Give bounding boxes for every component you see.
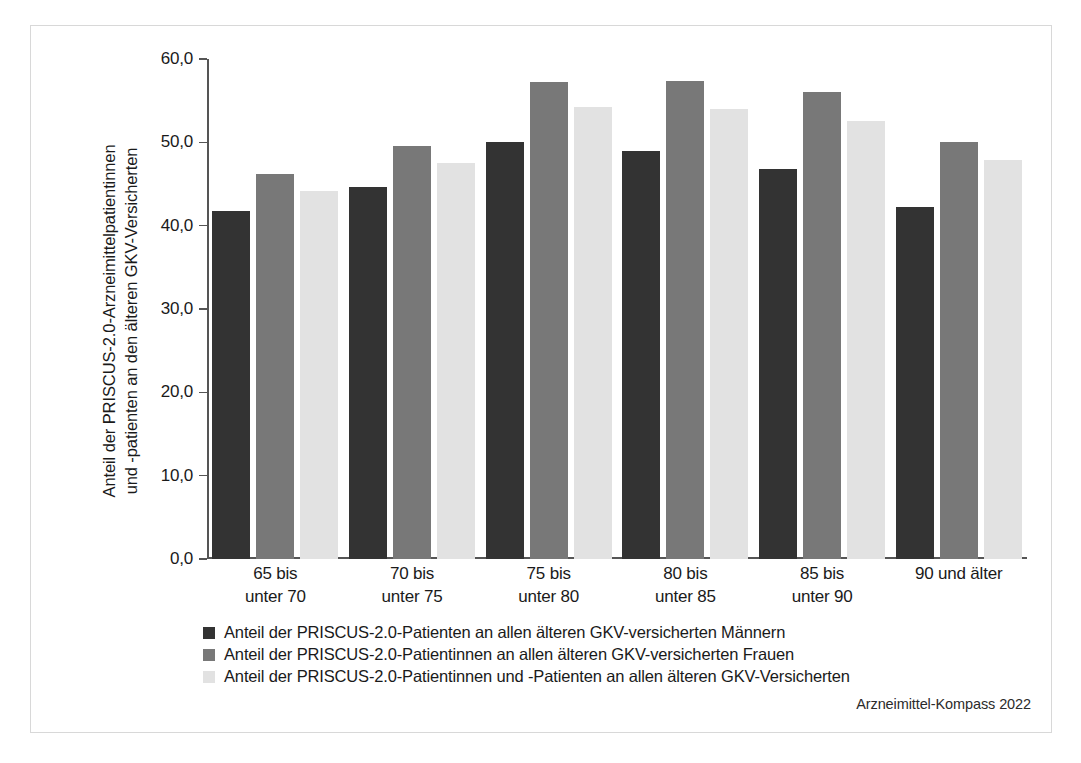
bar-group: [754, 59, 891, 559]
y-axis-tick: 10,0: [161, 466, 207, 486]
x-axis-tick-label-line: 85 bis: [754, 563, 891, 586]
bar: [256, 174, 294, 559]
legend-swatch-icon: [203, 627, 215, 639]
y-axis-tick-mark: [199, 392, 207, 394]
bar: [530, 82, 568, 559]
y-axis-tick: 0,0: [170, 549, 207, 569]
y-axis-tick: 50,0: [161, 132, 207, 152]
y-axis-tick: 30,0: [161, 299, 207, 319]
bar: [759, 169, 797, 559]
legend-swatch-icon: [203, 671, 215, 683]
y-axis-tick-label: 30,0: [161, 299, 193, 319]
y-axis-tick-mark: [199, 308, 207, 310]
x-axis-tick-label: 80 bisunter 85: [617, 563, 754, 609]
bar-group: [617, 59, 754, 559]
x-axis-tick-label: 90 und älter: [890, 563, 1027, 609]
legend-label: Anteil der PRISCUS-2.0-Patienten an alle…: [224, 623, 785, 642]
y-axis-tick-label: 0,0: [170, 549, 193, 569]
bar: [710, 109, 748, 559]
legend-item: Anteil der PRISCUS-2.0-Patientinnen und …: [203, 667, 850, 686]
y-axis-title-line-2: und -patienten an den älteren GKV-Versic…: [121, 148, 143, 495]
y-axis-tick: 40,0: [161, 216, 207, 236]
y-axis-tick-label: 10,0: [161, 466, 193, 486]
y-axis-tick: 60,0: [161, 49, 207, 69]
y-axis-tick-mark: [199, 225, 207, 227]
plot-area: 60,050,040,030,020,010,00,0: [207, 59, 1027, 559]
y-axis-title: Anteil der PRISCUS-2.0-Arzneimittelpatie…: [91, 86, 151, 556]
legend-label: Anteil der PRISCUS-2.0-Patientinnen und …: [224, 667, 850, 686]
y-axis-tick-mark: [199, 142, 207, 144]
y-axis-tick-label: 50,0: [161, 132, 193, 152]
x-axis-tick-label-line: 75 bis: [480, 563, 617, 586]
bar-group: [480, 59, 617, 559]
bar-group: [207, 59, 344, 559]
legend-item: Anteil der PRISCUS-2.0-Patientinnen an a…: [203, 645, 850, 664]
x-axis-labels: 65 bisunter 7070 bisunter 7575 bisunter …: [207, 563, 1027, 609]
y-axis-tick-mark: [199, 475, 207, 477]
x-axis-tick-label: 85 bisunter 90: [754, 563, 891, 609]
bar-group: [344, 59, 481, 559]
x-axis-tick-label: 70 bisunter 75: [344, 563, 481, 609]
source-credit: Arzneimittel-Kompass 2022: [856, 696, 1031, 712]
legend-item: Anteil der PRISCUS-2.0-Patienten an alle…: [203, 623, 850, 642]
chart-legend: Anteil der PRISCUS-2.0-Patienten an alle…: [203, 623, 850, 686]
x-axis-tick-label-line: unter 85: [617, 586, 754, 609]
bar: [940, 142, 978, 559]
bar: [486, 142, 524, 559]
x-axis-tick-label-line: unter 80: [480, 586, 617, 609]
y-axis-title-line-1: Anteil der PRISCUS-2.0-Arzneimittelpatie…: [99, 145, 121, 498]
bar: [212, 211, 250, 559]
bar: [896, 207, 934, 559]
bar: [847, 121, 885, 559]
y-axis-tick-label: 60,0: [161, 49, 193, 69]
y-axis-tick: 20,0: [161, 382, 207, 402]
bar: [622, 151, 660, 559]
x-axis-tick-label-line: 65 bis: [207, 563, 344, 586]
bar: [574, 107, 612, 559]
bar: [300, 191, 338, 559]
x-axis-tick-label-line: 80 bis: [617, 563, 754, 586]
x-axis-tick-label-line: 90 und älter: [890, 563, 1027, 586]
bar: [349, 187, 387, 559]
legend-label: Anteil der PRISCUS-2.0-Patientinnen an a…: [224, 645, 794, 664]
x-axis-tick-label-line: unter 90: [754, 586, 891, 609]
x-axis-tick-label: 65 bisunter 70: [207, 563, 344, 609]
bar: [666, 81, 704, 559]
x-axis-tick-label-line: unter 70: [207, 586, 344, 609]
bar-groups: [207, 59, 1027, 559]
y-axis-tick-mark: [199, 558, 207, 560]
bar-group: [890, 59, 1027, 559]
bar: [393, 146, 431, 559]
chart-figure: Anteil der PRISCUS-2.0-Arzneimittelpatie…: [30, 25, 1052, 733]
x-axis-tick-label: 75 bisunter 80: [480, 563, 617, 609]
x-axis-tick-label-line: 70 bis: [344, 563, 481, 586]
y-axis-tick-label: 20,0: [161, 382, 193, 402]
x-axis-tick-label-line: unter 75: [344, 586, 481, 609]
bar: [437, 163, 475, 559]
bar: [984, 160, 1022, 559]
legend-swatch-icon: [203, 649, 215, 661]
bar: [803, 92, 841, 559]
y-axis-tick-mark: [199, 58, 207, 60]
y-axis-tick-label: 40,0: [161, 216, 193, 236]
